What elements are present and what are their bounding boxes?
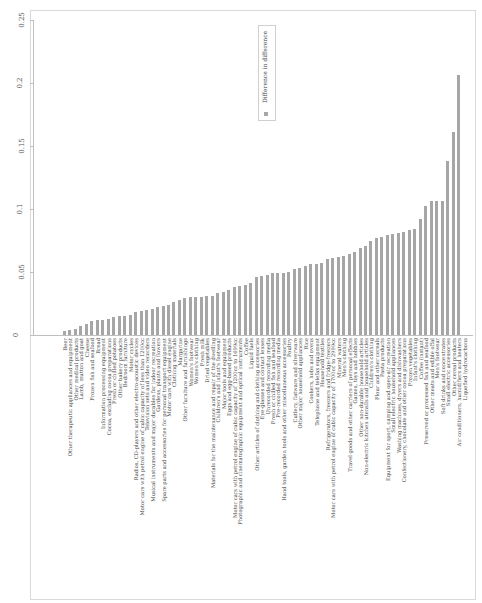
value-tick-label: 0.1 — [16, 203, 24, 214]
bar — [276, 273, 279, 335]
bar — [96, 320, 99, 335]
bar — [151, 309, 154, 335]
bar — [331, 258, 334, 335]
value-tick-label: 0.2 — [16, 77, 24, 88]
bar — [326, 259, 329, 335]
value-tick-mark — [30, 146, 33, 147]
bar — [413, 229, 416, 335]
bar — [249, 283, 252, 335]
bar — [435, 201, 438, 335]
bar — [255, 277, 258, 335]
bar — [178, 300, 181, 335]
bar — [134, 312, 137, 335]
legend-swatch-icon — [264, 112, 268, 116]
bar — [419, 219, 422, 335]
bar — [145, 310, 148, 335]
bar — [457, 75, 460, 335]
value-tick-mark — [30, 335, 33, 336]
bar — [380, 237, 383, 335]
bar — [63, 331, 66, 335]
category-axis-line — [33, 335, 473, 336]
bar — [79, 326, 82, 335]
bar — [430, 201, 433, 335]
value-tick-label: 0 — [12, 333, 20, 337]
bar — [266, 275, 269, 335]
bar — [238, 286, 241, 335]
bar — [189, 297, 192, 335]
bar — [260, 276, 263, 335]
bar — [85, 324, 88, 335]
bar — [348, 254, 351, 335]
category-label: Liquefied hydrocarbons — [462, 338, 468, 600]
bar — [446, 161, 449, 335]
bar — [183, 298, 186, 335]
value-tick-mark — [30, 83, 33, 84]
bar — [386, 235, 389, 335]
legend: Difference in difference — [258, 25, 276, 121]
bar — [211, 296, 214, 335]
bar — [205, 296, 208, 335]
bar — [304, 266, 307, 335]
bar — [222, 292, 225, 335]
bar — [353, 252, 356, 335]
bar — [90, 321, 93, 335]
bar — [123, 316, 126, 335]
bar — [107, 319, 110, 335]
bar — [337, 257, 340, 335]
bar — [172, 302, 175, 335]
bar — [200, 297, 203, 335]
value-tick-label: 0.15 — [18, 138, 26, 154]
bar — [424, 206, 427, 335]
bar — [167, 305, 170, 335]
bar — [293, 269, 296, 335]
bar — [244, 285, 247, 335]
bar — [359, 248, 362, 335]
bar — [452, 132, 455, 335]
bar — [315, 264, 318, 335]
bar — [112, 317, 115, 335]
bar — [156, 307, 159, 335]
bar — [118, 316, 121, 335]
bar — [408, 230, 411, 335]
bar-chart: 00.050.10.150.20.25 BeerOther therapeuti… — [0, 0, 482, 603]
bar — [74, 329, 77, 335]
value-tick-mark — [30, 272, 33, 273]
bar — [129, 315, 132, 335]
bar — [216, 293, 219, 335]
bar — [194, 297, 197, 335]
value-tick-label: 0.05 — [18, 264, 26, 280]
bar — [298, 268, 301, 335]
bar — [287, 272, 290, 335]
bar — [402, 232, 405, 335]
value-tick-mark — [30, 209, 33, 210]
value-tick-mark — [30, 20, 33, 21]
bar — [397, 233, 400, 335]
bar — [233, 287, 236, 335]
bar — [391, 234, 394, 335]
bar — [227, 290, 230, 335]
bar — [320, 263, 323, 335]
bar — [364, 246, 367, 335]
bar — [68, 330, 71, 335]
bar — [162, 306, 165, 335]
bar — [140, 311, 143, 335]
bar — [309, 264, 312, 335]
value-tick-label: 0.25 — [18, 12, 26, 28]
bar — [369, 241, 372, 336]
bar — [101, 320, 104, 335]
bar — [282, 273, 285, 335]
bar — [342, 256, 345, 335]
value-axis-line — [33, 20, 34, 335]
bar — [375, 238, 378, 335]
bar — [271, 273, 274, 335]
bar — [441, 201, 444, 335]
legend-label: Difference in difference — [261, 31, 268, 103]
